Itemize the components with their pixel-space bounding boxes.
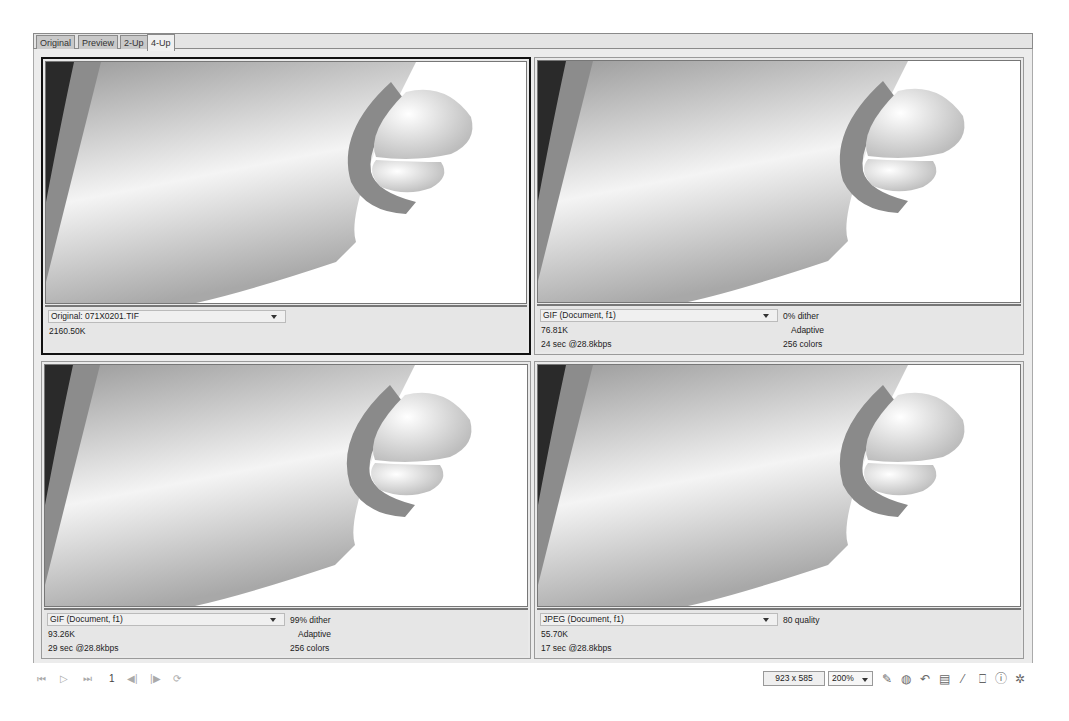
artwork-image bbox=[45, 365, 528, 606]
tab-2up[interactable]: 2-Up bbox=[120, 35, 148, 49]
first-frame-icon[interactable]: ⏮ bbox=[37, 673, 46, 685]
file-size: 55.70K bbox=[541, 629, 568, 639]
frame-number: 1 bbox=[109, 673, 115, 684]
image-preview[interactable] bbox=[44, 364, 528, 607]
panel-original[interactable]: Original: 071X0201.TIF 2160.50K bbox=[41, 57, 531, 355]
tab-original[interactable]: Original bbox=[36, 35, 75, 49]
artwork-image bbox=[538, 365, 1021, 606]
format-dropdown[interactable]: Original: 071X0201.TIF bbox=[48, 310, 286, 323]
next-frame-icon[interactable]: |▶ bbox=[150, 673, 161, 684]
view-area: Original: 071X0201.TIF 2160.50K bbox=[33, 49, 1033, 663]
optimization-info: Original: 071X0201.TIF 2160.50K bbox=[45, 305, 527, 351]
format-label: GIF (Document, f1) bbox=[543, 310, 616, 320]
info-icon[interactable]: ⓘ bbox=[994, 672, 1008, 686]
format-dropdown[interactable]: GIF (Document, f1) bbox=[47, 613, 285, 626]
previous-frame-icon[interactable]: ◀| bbox=[127, 673, 138, 684]
settings-icon[interactable]: ✲ bbox=[1013, 672, 1027, 686]
zoom-dropdown[interactable]: 200% bbox=[828, 671, 873, 686]
optimization-info: GIF (Document, f1) 76.81K 24 sec @28.8kb… bbox=[537, 304, 1021, 352]
eyedropper-icon[interactable]: ⁄ bbox=[956, 672, 970, 686]
artwork-image bbox=[538, 61, 1021, 302]
tab-bar: Original Preview 2-Up 4-Up bbox=[33, 33, 1033, 49]
optimization-info: GIF (Document, f1) 93.26K 29 sec @28.8kb… bbox=[44, 608, 528, 656]
palette-value: Adaptive bbox=[298, 629, 331, 639]
image-preview[interactable] bbox=[45, 61, 527, 304]
play-icon[interactable]: ▷ bbox=[60, 673, 68, 684]
optimization-info: JPEG (Document, f1) 55.70K 17 sec @28.8k… bbox=[537, 608, 1021, 656]
chevron-down-icon bbox=[271, 315, 277, 319]
format-dropdown[interactable]: JPEG (Document, f1) bbox=[540, 613, 778, 626]
pencil-icon[interactable]: ✎ bbox=[880, 672, 894, 686]
download-time: 29 sec @28.8kbps bbox=[48, 643, 119, 653]
quality-value: 80 quality bbox=[783, 615, 819, 625]
file-size: 2160.50K bbox=[49, 326, 85, 336]
format-label: JPEG (Document, f1) bbox=[543, 614, 624, 624]
loop-icon[interactable]: ⟳ bbox=[173, 673, 181, 684]
chevron-down-icon bbox=[763, 314, 769, 318]
tab-4up[interactable]: 4-Up bbox=[147, 34, 175, 51]
colors-value: 256 colors bbox=[783, 339, 822, 349]
chevron-down-icon bbox=[763, 618, 769, 622]
colors-value: 256 colors bbox=[290, 643, 329, 653]
layers-icon[interactable]: ▤ bbox=[937, 672, 951, 686]
last-frame-icon[interactable]: ⏭ bbox=[83, 673, 92, 685]
download-time: 17 sec @28.8kbps bbox=[541, 643, 612, 653]
download-time: 24 sec @28.8kbps bbox=[541, 339, 612, 349]
format-label: Original: 071X0201.TIF bbox=[51, 311, 139, 321]
zoom-value: 200% bbox=[832, 673, 854, 683]
palette-value: Adaptive bbox=[791, 325, 824, 335]
palette-icon[interactable]: ◍ bbox=[899, 672, 913, 686]
panel-jpeg-80[interactable]: JPEG (Document, f1) 55.70K 17 sec @28.8k… bbox=[534, 361, 1024, 659]
tab-preview[interactable]: Preview bbox=[78, 35, 118, 49]
dither-value: 0% dither bbox=[783, 311, 819, 321]
panel-gif-0-dither[interactable]: GIF (Document, f1) 76.81K 24 sec @28.8kb… bbox=[534, 57, 1024, 355]
panel-gif-99-dither[interactable]: GIF (Document, f1) 93.26K 29 sec @28.8kb… bbox=[41, 361, 531, 659]
image-preview[interactable] bbox=[537, 60, 1021, 303]
book-icon[interactable]: ⎕ bbox=[975, 672, 989, 686]
format-label: GIF (Document, f1) bbox=[50, 614, 123, 624]
chevron-down-icon bbox=[862, 678, 868, 682]
format-dropdown[interactable]: GIF (Document, f1) bbox=[540, 309, 778, 322]
undo-icon[interactable]: ↶ bbox=[918, 672, 932, 686]
dither-value: 99% dither bbox=[290, 615, 331, 625]
image-dimensions: 923 x 585 bbox=[763, 671, 825, 686]
status-bar: ⏮ ▷ ⏭ 1 ◀| |▶ ⟳ 923 x 585 200% ✎ ◍ ↶ ▤ ⁄… bbox=[33, 667, 1033, 691]
file-size: 76.81K bbox=[541, 325, 568, 335]
file-size: 93.26K bbox=[48, 629, 75, 639]
image-preview[interactable] bbox=[537, 364, 1021, 607]
artwork-image bbox=[46, 62, 527, 303]
four-up-window: Original Preview 2-Up 4-Up bbox=[33, 33, 1033, 663]
chevron-down-icon bbox=[270, 618, 276, 622]
